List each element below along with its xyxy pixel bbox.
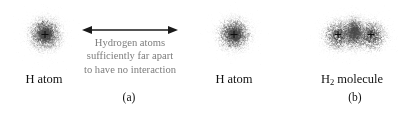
label-right-h-atom: H atom — [215, 72, 252, 86]
caption-line-3: to have no interaction — [84, 63, 176, 76]
label-h2-molecule-suffix: molecule — [334, 72, 383, 86]
nucleus-right-h-atom: + — [230, 27, 239, 42]
electron-cloud-h2-molecule — [306, 0, 402, 70]
nucleus-right-h2-molecule: + — [367, 28, 375, 42]
nucleus-left-h2-molecule: + — [334, 28, 342, 42]
panel-a-label: (a) — [123, 91, 136, 104]
caption-line-2: sufficiently far apart — [84, 49, 176, 62]
label-left-h-atom: H atom — [25, 72, 62, 86]
panel-a-caption: Hydrogen atoms sufficiently far apart to… — [84, 36, 176, 76]
hydrogen-bonding-figure: + Hydrogen atoms sufficiently far apart … — [0, 0, 403, 114]
nucleus-left-h-atom: + — [41, 27, 50, 42]
panel-b-label: (b) — [348, 91, 361, 104]
label-h2-molecule-prefix: H — [321, 72, 330, 86]
caption-line-1: Hydrogen atoms — [84, 36, 176, 49]
label-h2-molecule: H2 molecule — [321, 72, 383, 86]
